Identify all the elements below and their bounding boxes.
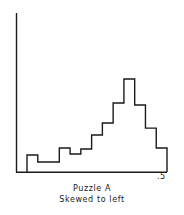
histogram-step-path — [27, 79, 167, 172]
histogram-outline — [27, 79, 167, 172]
figure-caption: Puzzle A Skewed to left — [0, 183, 184, 205]
caption-subtitle: Skewed to left — [0, 194, 184, 205]
caption-title: Puzzle A — [0, 183, 184, 194]
figure-container: .5 Puzzle A Skewed to left — [0, 0, 184, 215]
x-axis-max-tick-label: .5 — [157, 172, 165, 181]
